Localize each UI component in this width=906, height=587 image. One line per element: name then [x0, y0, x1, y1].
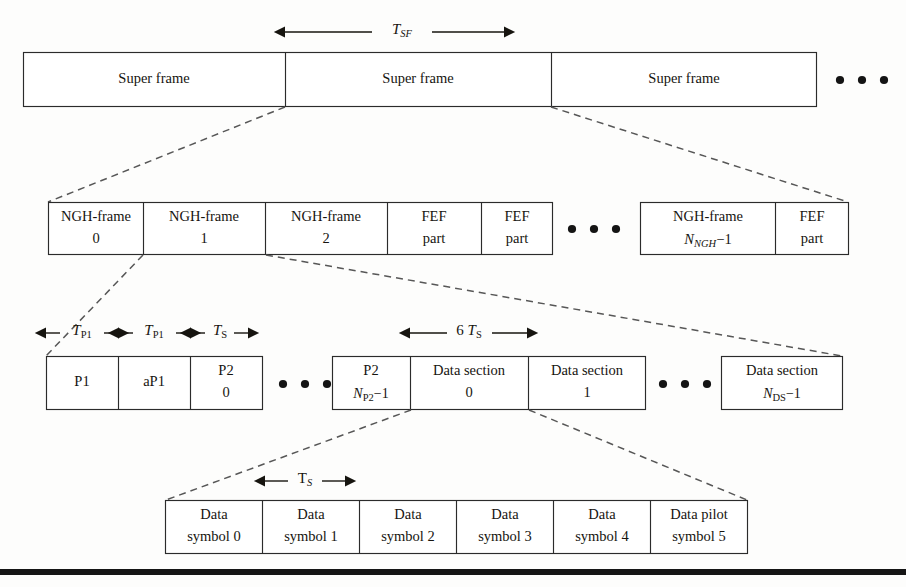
- data-symbol-4-line1: Data: [588, 506, 616, 522]
- dimension-tp1-first: TP1: [46, 322, 118, 340]
- data-pilot-symbol-5-line2: symbol 5: [672, 528, 726, 544]
- data-symbol-4-line2: symbol 4: [575, 528, 629, 544]
- p1-p2-data-section-row: TP1 TP1 TS: [46, 322, 843, 409]
- ts-row3-label: TS: [213, 322, 227, 340]
- fef-part-3-line2: part: [801, 230, 824, 246]
- data-symbol-1-line1: Data: [297, 506, 325, 522]
- data-symbol-2-line1: Data: [394, 506, 422, 522]
- dimension-ts-row3: TS: [191, 322, 248, 340]
- p1-box-label: P1: [74, 373, 89, 389]
- data-section-1-line2: 1: [583, 384, 590, 400]
- p2-last-line1: P2: [363, 362, 378, 378]
- super-frame-box-1-label: Super frame: [382, 70, 453, 86]
- p2-0-line2: 0: [222, 384, 229, 400]
- tp1-second-label: TP1: [144, 322, 163, 340]
- super-frame-trailing-ellipsis: [836, 76, 888, 84]
- fef-part-2-line2: part: [506, 230, 529, 246]
- ts-row4-label: TS: [298, 470, 313, 488]
- bottom-rule: [0, 569, 906, 575]
- frame-structure-diagram: TSF Super frame Super frame Super frame: [0, 0, 906, 587]
- dimension-tp1-second: TP1: [119, 322, 190, 340]
- data-symbol-3-line2: symbol 3: [478, 528, 532, 544]
- ngh-frame-0-line2: 0: [92, 230, 99, 246]
- ngh-frame-2-line2: 2: [322, 230, 329, 246]
- tsf-label: TSF: [392, 21, 413, 39]
- data-symbol-3-line1: Data: [491, 506, 519, 522]
- data-symbol-row: TS Data symbol 0 Data symbol 1 Data symb…: [166, 470, 748, 553]
- ngh-middle-ellipsis: [568, 225, 620, 233]
- connector-ngh-to-p1p2: [46, 255, 842, 356]
- ngh-frame-2-line1: NGH-frame: [291, 208, 361, 224]
- ngh-frame-last-line1: NGH-frame: [673, 208, 743, 224]
- ngh-frame-0-line1: NGH-frame: [61, 208, 131, 224]
- data-symbol-0-line2: symbol 0: [187, 528, 241, 544]
- dimension-ts-row4: TS: [265, 470, 345, 488]
- fef-part-2-line1: FEF: [505, 208, 530, 224]
- fef-part-3-line1: FEF: [800, 208, 825, 224]
- super-frame-box-2-label: Super frame: [648, 70, 719, 86]
- dimension-tsf: TSF: [285, 21, 504, 39]
- dimension-6ts: 6 TS: [410, 322, 527, 340]
- data-symbol-2-line2: symbol 2: [381, 528, 435, 544]
- fef-part-1-line2: part: [423, 230, 446, 246]
- ngh-frame-1-line1: NGH-frame: [169, 208, 239, 224]
- p1p2-ellipsis-2: [659, 380, 711, 388]
- p2-0-line1: P2: [218, 362, 233, 378]
- super-frame-box-0-label: Super frame: [118, 70, 189, 86]
- ap1-box-label: aP1: [143, 373, 165, 389]
- data-section-1-line1: Data section: [551, 362, 624, 378]
- data-symbol-1-line2: symbol 1: [284, 528, 338, 544]
- data-pilot-symbol-5-line1: Data pilot: [670, 506, 728, 522]
- tp1-first-label: TP1: [72, 322, 91, 340]
- fef-part-1-line1: FEF: [422, 208, 447, 224]
- data-section-0-line2: 0: [465, 384, 472, 400]
- super-frame-row: TSF Super frame Super frame Super frame: [24, 21, 889, 106]
- data-symbol-0-line1: Data: [200, 506, 228, 522]
- ngh-frame-1-line2: 1: [200, 230, 207, 246]
- connector-datasection-to-symbols: [166, 410, 747, 500]
- data-section-last-line1: Data section: [746, 362, 819, 378]
- ngh-frame-row: NGH-frame 0 NGH-frame 1 NGH-frame 2 FEF …: [49, 203, 849, 255]
- p1p2-ellipsis-1: [279, 380, 331, 388]
- diagram-canvas: TSF Super frame Super frame Super frame: [0, 0, 906, 587]
- connector-superframe-to-ngh: [48, 107, 848, 202]
- data-section-0-line1: Data section: [433, 362, 506, 378]
- six-ts-label: 6 TS: [456, 322, 482, 340]
